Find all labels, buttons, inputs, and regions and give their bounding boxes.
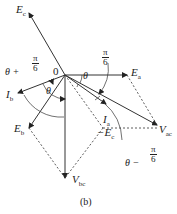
figure-caption: (b): [80, 196, 92, 207]
phasor-ib: [18, 75, 65, 93]
label-ib: Ib: [6, 89, 13, 103]
theta-plus-pi-6-label: θ + π6: [5, 60, 19, 79]
label-eb: Eb: [14, 123, 24, 137]
phasor-vac: [65, 75, 157, 125]
pi-over-6-label: π6: [102, 48, 109, 67]
label-neg-ec: −Ec: [97, 127, 114, 141]
label-vbc: Vbc: [72, 174, 85, 188]
phasor-eb: [29, 75, 65, 128]
label-ea: Ea: [131, 67, 141, 81]
origin-label: 0: [53, 66, 59, 77]
phasor-diagram: [0, 0, 177, 214]
label-vac: Vac: [159, 124, 172, 138]
label-ec: Ec: [16, 4, 26, 18]
theta-label-right: θ: [83, 71, 88, 81]
theta-minus-pi-6-label: θ − π6: [125, 151, 139, 170]
theta-label-left: θ: [46, 86, 51, 96]
phasor-neg-ec: [65, 75, 103, 128]
